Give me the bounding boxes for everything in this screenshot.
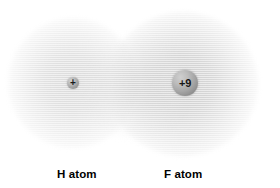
fluorine-atom-caption: F atom <box>164 168 202 180</box>
cloud-overlap-region <box>88 40 186 136</box>
hydrogen-atom-caption: H atom <box>57 168 97 180</box>
scanline-texture-overlay <box>0 0 280 162</box>
hydrogen-nucleus: + <box>67 77 79 89</box>
fluorine-charge-label: +9 <box>179 78 191 89</box>
fluorine-nucleus: +9 <box>172 70 198 96</box>
hydrogen-charge-label: + <box>70 78 76 88</box>
electron-cloud-diagram: + +9 H atom F atom <box>0 0 280 188</box>
